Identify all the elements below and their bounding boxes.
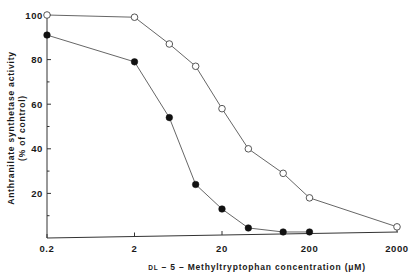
open-circle-marker — [245, 146, 252, 153]
filled-circle-marker — [306, 229, 313, 236]
chart: 20406080100 0.22202002000 Anthranilate s… — [0, 0, 420, 277]
y-tick-label: 40 — [31, 143, 43, 154]
filled-circle-marker — [131, 59, 138, 66]
x-tick-label: 200 — [301, 243, 319, 254]
series-line — [47, 35, 310, 232]
series-filled-circles — [44, 32, 313, 236]
open-circle-marker — [192, 63, 199, 70]
open-circle-marker — [44, 12, 51, 19]
filled-circle-marker — [219, 206, 226, 213]
x-ticks: 0.22202002000 — [39, 228, 408, 254]
x-axis-label-text: – 5 – Methyltryptophan concentration (μM… — [158, 262, 365, 272]
x-axis-label: DL – 5 – Methyltryptophan concentration … — [148, 262, 366, 272]
y-axis-label: Anthranilate synthetase activity (% of c… — [6, 51, 27, 205]
y-tick-label: 80 — [31, 54, 43, 65]
filled-circle-marker — [192, 181, 199, 188]
y-tick-label: 100 — [25, 10, 43, 21]
x-tick-label: 2 — [132, 243, 138, 254]
y-axis-label-line2: (% of control) — [17, 95, 27, 161]
filled-circle-marker — [44, 32, 51, 39]
filled-circle-marker — [166, 114, 173, 121]
series-line — [47, 15, 397, 227]
series-open-circles — [44, 12, 401, 230]
open-circle-marker — [131, 14, 138, 21]
x-axis-label-prefix: DL — [148, 264, 158, 271]
y-axis-label-line1: Anthranilate synthetase activity — [6, 51, 16, 205]
open-circle-marker — [219, 105, 226, 112]
y-tick-label: 60 — [31, 99, 43, 110]
y-tick-label: 20 — [31, 188, 43, 199]
open-circle-marker — [394, 224, 401, 231]
open-circle-marker — [306, 195, 313, 202]
filled-circle-marker — [245, 225, 252, 232]
x-tick-label: 0.2 — [39, 243, 54, 254]
x-tick-label: 20 — [216, 243, 228, 254]
filled-circle-marker — [280, 229, 287, 236]
x-tick-label: 2000 — [385, 243, 409, 254]
open-circle-marker — [280, 170, 287, 177]
open-circle-marker — [166, 41, 173, 48]
